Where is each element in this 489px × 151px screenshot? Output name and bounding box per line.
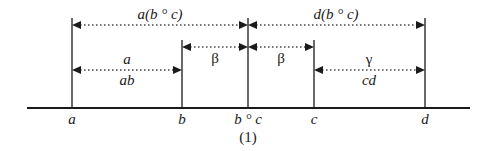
label-a-bc: a(b ° c)	[137, 6, 182, 23]
point-label-d: d	[421, 111, 429, 127]
label-gamma: γ	[365, 51, 373, 67]
interval-top-right	[248, 21, 425, 29]
label-beta-left: β	[211, 50, 219, 66]
point-label-b-compose-c: b ° c	[234, 111, 262, 127]
interval-diagram: a(b ° c) d(b ° c) β β a ab γ cd a b b ° …	[0, 0, 489, 151]
label-ab: ab	[120, 72, 136, 88]
point-label-a: a	[68, 111, 76, 127]
label-a-top: a	[123, 51, 131, 67]
figure-label: (1)	[239, 129, 257, 146]
point-label-c: c	[311, 111, 318, 127]
label-beta-right: β	[277, 50, 285, 66]
label-cd: cd	[362, 72, 377, 88]
interval-top-left	[72, 21, 248, 29]
label-d-bc: d(b ° c)	[313, 6, 358, 23]
point-label-b: b	[178, 111, 186, 127]
